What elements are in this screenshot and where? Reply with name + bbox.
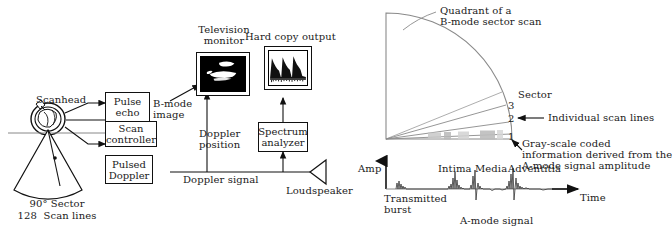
sector-caption-line-1: 90° Sector [12, 198, 102, 209]
sector-number-3: 3 [508, 100, 514, 111]
doppler-position-label: Doppler position [199, 128, 240, 150]
transmitted-burst-label: Transmitted burst [384, 193, 447, 215]
amp-axis-label: Amp [358, 163, 381, 174]
doppler-spectrum-trace [269, 51, 307, 85]
echo-label-media: Media [475, 163, 507, 174]
box-scan-controller[interactable]: Scan controller [105, 121, 157, 147]
sector-number-2: 2 [508, 113, 514, 124]
scanhead-label: Scanhead [36, 94, 86, 105]
individual-scan-lines-label: Individual scan lines [548, 112, 654, 123]
echo-label-adventitia: Adventitia [508, 163, 561, 174]
sector-fan-graphic [14, 130, 82, 199]
hard-copy-output-label: Hard copy output [245, 31, 333, 42]
sector-caption-line-2: 128 Scan lines [12, 210, 102, 221]
b-mode-image-content [200, 56, 246, 92]
loudspeaker-graphic [310, 160, 326, 184]
echo-label-intima: Intima [438, 163, 472, 174]
sector-number-1: 1 [508, 131, 514, 142]
b-mode-sector-scan-panel: Quadrant of a B-mode sector scan Sector … [340, 0, 660, 236]
sector-heading: Sector [518, 89, 552, 100]
box-pulsed-doppler[interactable]: Pulsed Doppler [105, 155, 153, 184]
doppler-signal-label: Doppler signal [183, 174, 259, 185]
box-spectrum-analyzer[interactable]: Spectrum analyzer [258, 122, 308, 152]
b-mode-image-label: B-mode image [153, 98, 192, 120]
sector-quadrant-outline [386, 13, 512, 139]
time-axis-label: Time [580, 192, 606, 203]
loudspeaker-label: Loudspeaker [286, 185, 340, 196]
quadrant-title: Quadrant of a B-mode sector scan [440, 5, 542, 27]
television-monitor [196, 52, 250, 96]
television-screen [200, 56, 246, 92]
box-pulse-echo[interactable]: Pulse echo [105, 92, 150, 122]
a-mode-signal-caption: A-mode signal [460, 215, 533, 226]
hard-copy-trace-area [268, 50, 308, 86]
hard-copy-output [264, 46, 312, 90]
duplex-system-block-diagram-panel: Pulse echo Scan controller Pulsed Dopple… [0, 0, 340, 236]
